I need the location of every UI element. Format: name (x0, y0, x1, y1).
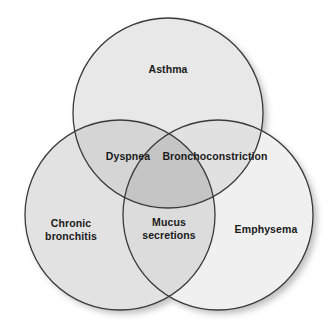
venn-diagram-canvas (0, 0, 336, 335)
venn-diagram: Asthma Chronic bronchitis Emphysema Dysp… (0, 0, 336, 335)
